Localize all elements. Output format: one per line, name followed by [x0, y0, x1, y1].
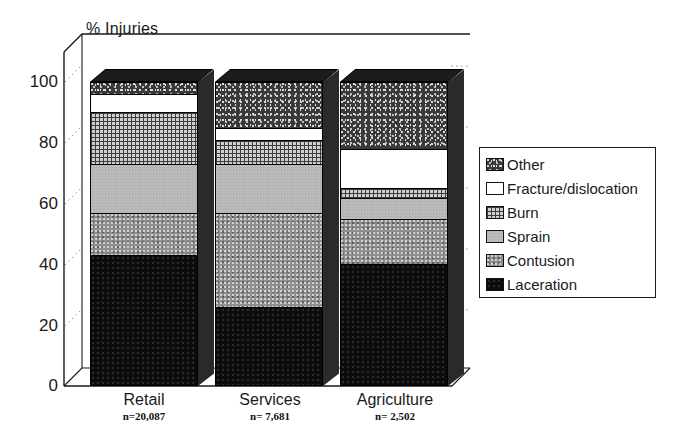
y-axis-title: % Injuries: [86, 20, 158, 38]
legend-swatch-icon: [486, 278, 504, 291]
legend-label: Contusion: [507, 253, 575, 268]
category-name: Agriculture: [320, 391, 470, 409]
legend-item-contusion[interactable]: Contusion: [486, 248, 655, 272]
bar-top-face: [90, 69, 213, 82]
bar-side-face: [323, 69, 339, 386]
bar-segment-sprain[interactable]: [340, 198, 448, 219]
bar-segment-laceration[interactable]: [215, 307, 323, 386]
bar-top-face: [340, 69, 463, 82]
legend-swatch-icon: [486, 254, 504, 267]
legend-item-fracture-dislocation[interactable]: Fracture/dislocation: [486, 176, 655, 200]
legend-label: Fracture/dislocation: [507, 181, 638, 196]
bar-segment-laceration[interactable]: [90, 255, 198, 386]
bar-segment-other[interactable]: [215, 82, 323, 128]
legend-label: Sprain: [507, 229, 550, 244]
category-sample-size: n= 2,502: [320, 409, 470, 423]
bar-segment-other[interactable]: [90, 82, 198, 94]
bar-segment-fracture-dislocation[interactable]: [215, 128, 323, 140]
y-tick-0: 0: [4, 376, 58, 396]
y-tick-20: 20: [4, 316, 58, 336]
bar-segment-other[interactable]: [340, 82, 448, 149]
legend-swatch-icon: [486, 158, 504, 171]
legend-label: Other: [507, 157, 545, 172]
bar-segment-contusion[interactable]: [90, 213, 198, 256]
bar-segment-contusion[interactable]: [215, 213, 323, 307]
bar-segment-burn[interactable]: [340, 188, 448, 197]
legend-box: OtherFracture/dislocationBurnSprainContu…: [479, 147, 656, 298]
y-tick-40: 40: [4, 255, 58, 275]
legend-item-other[interactable]: Other: [486, 152, 655, 176]
bar-segment-contusion[interactable]: [340, 219, 448, 265]
bar-segment-laceration[interactable]: [340, 264, 448, 386]
bar-top-face: [215, 69, 338, 82]
bar-segment-fracture-dislocation[interactable]: [340, 149, 448, 189]
y-tick-60: 60: [4, 194, 58, 214]
bar-segment-burn[interactable]: [215, 140, 323, 164]
legend-item-sprain[interactable]: Sprain: [486, 224, 655, 248]
legend-swatch-icon: [486, 230, 504, 243]
legend-label: Burn: [507, 205, 539, 220]
bar-side-face: [198, 69, 214, 386]
y-tick-80: 80: [4, 133, 58, 153]
category-label-agriculture: Agriculture n= 2,502: [320, 391, 470, 423]
chart-canvas: % Injuries: [0, 0, 689, 442]
bar-segment-sprain[interactable]: [90, 164, 198, 213]
y-tick-100: 100: [4, 72, 58, 92]
bar-segment-burn[interactable]: [90, 112, 198, 164]
legend-swatch-icon: [486, 206, 504, 219]
legend-swatch-icon: [486, 182, 504, 195]
legend-item-burn[interactable]: Burn: [486, 200, 655, 224]
bar-segment-fracture-dislocation[interactable]: [90, 94, 198, 112]
bar-side-face: [448, 69, 464, 386]
bar-segment-sprain[interactable]: [215, 164, 323, 213]
legend-label: Laceration: [507, 277, 577, 292]
legend-item-laceration[interactable]: Laceration: [486, 272, 655, 296]
